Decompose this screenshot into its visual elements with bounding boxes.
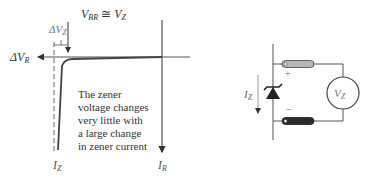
meter-main: V [334,87,341,99]
circuit-iz-sub: Z [248,93,252,102]
delta-vr-sub: R [24,56,29,65]
meter-sub: Z [341,92,345,101]
plus-sign: + [285,69,291,79]
vbr-sub: BR [88,13,98,22]
note-line-1: The zener [78,88,149,101]
voltmeter-label: VZ [334,88,345,101]
delta-vz-main: ΔV [49,23,62,35]
delta-vz-bracket [54,40,68,45]
zener-explanation-note: The zener voltage changes very little wi… [78,88,149,153]
note-line-3: very little with [78,114,149,127]
ir-axis-label: IR [158,159,167,173]
ir-sub: R [162,164,167,173]
zener-diode-symbol [264,84,282,99]
note-line-5: in zener current [78,140,149,153]
minus-sign: − [286,105,292,115]
circuit-iz-label: IZ [244,89,252,102]
delta-vr-label: ΔVR [10,51,29,65]
delta-vz-label: ΔVZ [49,24,67,37]
negative-probe [273,118,314,125]
approx-sign: ≅ [98,7,114,21]
iz-sub: Z [57,164,61,173]
delta-vz-sub: Z [62,28,66,37]
vbr-approx-vz-label: VBR ≅ VZ [81,8,126,22]
positive-probe [273,61,314,68]
note-line-2: voltage changes [78,101,149,114]
iz-axis-label: IZ [53,159,61,173]
vz-sub: Z [121,13,125,22]
delta-vr-main: ΔV [10,50,24,64]
note-line-4: a large change [78,127,149,140]
